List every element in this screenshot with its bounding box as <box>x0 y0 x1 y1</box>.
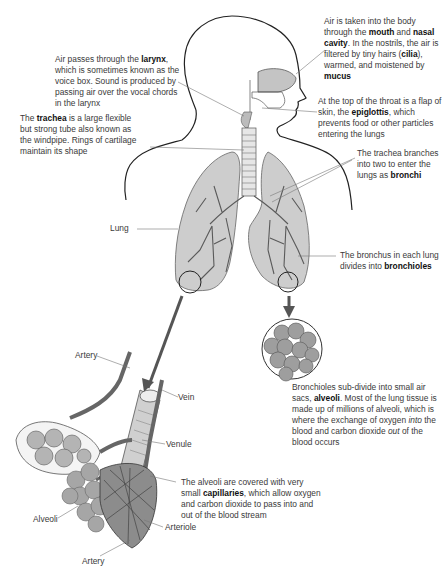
larynx-annotation: Air passes through the larynx, which is … <box>55 54 185 109</box>
artery-top-label: Artery <box>75 350 97 361</box>
bronchi-annotation: The trachea branches into two to enter t… <box>357 148 445 181</box>
mouth-nasal-annotation: Air is taken into the body through the m… <box>324 16 444 82</box>
right-lung <box>249 152 310 288</box>
venule-label: Venule <box>166 439 192 450</box>
arteriole-label: Arteriole <box>165 522 196 533</box>
vein-label: Vein <box>178 392 194 403</box>
alveoli-sacs-annotation: Bronchioles sub-divide into small air sa… <box>292 382 440 448</box>
artery-bottom-label: Artery <box>82 556 104 567</box>
capillaries-annotation: The alveoli are covered with very small … <box>181 477 321 521</box>
epiglottis-annotation: At the top of the throat is a flap of sk… <box>318 96 443 140</box>
bronchioles-annotation: The bronchus in each lung divides into b… <box>340 250 440 272</box>
trachea-annotation: The trachea is a large flexible but stro… <box>20 113 140 157</box>
alveoli-label: Alveoli <box>33 514 58 525</box>
left-lung <box>175 152 240 291</box>
lung-label: Lung <box>110 223 129 234</box>
